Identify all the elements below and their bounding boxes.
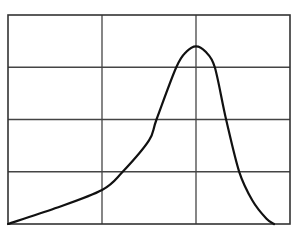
data-curve — [8, 46, 274, 224]
line-chart — [0, 0, 299, 235]
